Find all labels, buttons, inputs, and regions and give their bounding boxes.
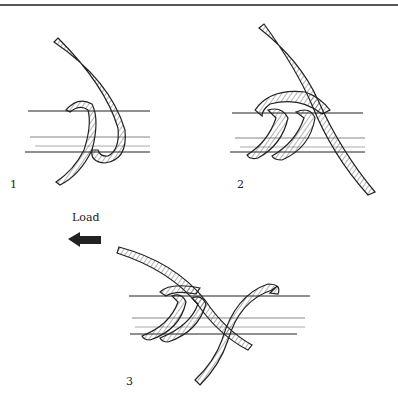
load-label: Load xyxy=(72,211,100,224)
step-2-illustration xyxy=(230,24,375,195)
step-2-number: 2 xyxy=(237,178,244,191)
rope-3 xyxy=(117,247,279,385)
arrow-left-icon xyxy=(68,232,101,247)
rope-2 xyxy=(247,24,375,195)
step-3-illustration xyxy=(117,247,310,385)
step-3-number: 3 xyxy=(126,375,133,388)
step-1-number: 1 xyxy=(10,178,17,191)
step-1-illustration xyxy=(25,38,150,185)
knot-diagram xyxy=(0,0,398,405)
